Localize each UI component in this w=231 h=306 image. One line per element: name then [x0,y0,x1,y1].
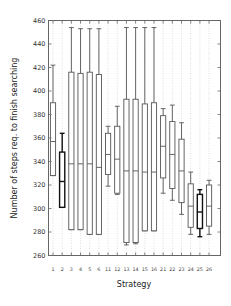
boxes [50,28,211,245]
y-tick-label: 380 [33,111,45,119]
box-strategy-11 [105,126,110,186]
x-tick-label: 1 [51,267,54,272]
x-tick-label: 22 [169,267,175,272]
box-strategy-1 [50,65,55,175]
x-tick-label: 5 [88,267,91,272]
boxplot-chart: 260280300320340360380400420440460 123456… [0,0,231,306]
x-axis-tick-labels: 123456111213141516212223242526 [51,267,212,272]
x-tick-label: 21 [160,267,166,272]
x-tick-label: 14 [133,267,139,272]
box-strategy-14 [133,28,138,244]
y-tick-label: 260 [33,252,45,260]
x-tick-label: 26 [206,267,212,272]
x-tick-label: 4 [79,267,82,272]
x-tick-label: 16 [151,267,157,272]
y-axis-title: Number of steps req. to finish searching [10,58,19,219]
box-strategy-24 [188,172,193,234]
y-tick-label: 440 [33,40,45,48]
x-axis-title: Strategy [117,280,152,289]
box-strategy-4 [78,29,83,230]
y-tick-label: 300 [33,205,45,213]
y-tick-label: 280 [33,228,45,236]
x-tick-label: 12 [114,267,120,272]
y-tick-label: 340 [33,158,45,166]
x-tick-label: 2 [61,267,64,272]
x-tick-label: 11 [105,267,111,272]
x-tick-label: 15 [142,267,148,272]
y-tick-label: 460 [33,17,45,25]
x-tick-label: 6 [97,267,100,272]
y-tick-label: 400 [33,87,45,95]
box-strategy-25 [197,190,202,237]
box-strategy-22 [170,105,175,200]
y-axis-tick-labels: 260280300320340360380400420440460 [33,17,45,260]
box-strategy-21 [161,109,166,194]
box-strategy-3 [69,28,74,230]
gridlines [53,21,209,256]
y-tick-label: 360 [33,134,45,142]
x-tick-label: 13 [123,267,129,272]
x-tick-label: 24 [188,267,194,272]
x-tick-label: 23 [178,267,184,272]
box-strategy-6 [96,29,101,235]
box-strategy-5 [87,29,92,235]
x-tick-label: 3 [70,267,73,272]
x-tick-label: 25 [197,267,203,272]
box-strategy-15 [142,28,147,231]
box-strategy-23 [179,123,184,215]
box-strategy-13 [124,28,129,245]
y-tick-label: 320 [33,181,45,189]
box-strategy-2 [60,133,65,207]
y-tick-label: 420 [33,64,45,72]
box-strategy-16 [151,28,156,231]
box-strategy-12 [115,106,120,194]
box-strategy-26 [206,180,211,234]
